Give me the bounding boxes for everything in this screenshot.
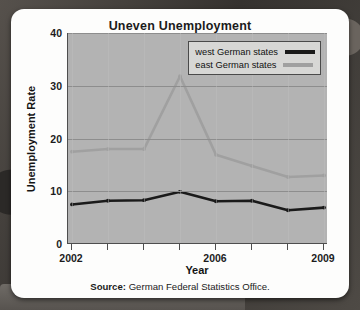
- x-axis-title: Year: [67, 264, 327, 276]
- legend-swatch-east: [283, 63, 313, 67]
- chart-legend: west German states east German states: [188, 41, 321, 75]
- legend-label-west: west German states: [195, 47, 278, 57]
- legend-label-east: east German states: [195, 60, 276, 70]
- x-tick-label-2009: 2009: [311, 252, 334, 264]
- vgridline-2003: [108, 33, 109, 243]
- y-tick-label-40: 40: [50, 27, 62, 39]
- vgridline-2004: [144, 33, 145, 243]
- y-axis-title-text: Unemployment Rate: [25, 85, 37, 191]
- source-text: German Federal Statistics Office.: [129, 281, 270, 292]
- y-tick-label-10: 10: [50, 185, 62, 197]
- x-tick-label-2006: 2006: [203, 252, 226, 264]
- x-tick-2008: [287, 244, 288, 250]
- vgridline-2009: [324, 33, 325, 243]
- x-tick-2009: [323, 244, 324, 250]
- x-tick-2002: [71, 244, 72, 250]
- x-tick-2005: [179, 244, 180, 250]
- y-tick-label-20: 20: [50, 133, 62, 145]
- plot-area-wrapper: 010203040 200220062009 west German state…: [67, 33, 327, 244]
- vgridline-2005: [180, 33, 181, 243]
- y-tick-label-0: 0: [56, 238, 62, 250]
- legend-item-east: east German states: [195, 58, 315, 71]
- x-tick-2007: [251, 244, 252, 250]
- chart-card: Uneven Unemployment Unemployment Rate 01…: [11, 9, 349, 298]
- y-tick-label-30: 30: [50, 80, 62, 92]
- source-prefix: Source:: [90, 281, 126, 292]
- legend-item-west: west German states: [195, 45, 315, 58]
- series-line-east: [72, 76, 324, 177]
- vgridline-2002: [72, 33, 73, 243]
- legend-swatch-west: [285, 50, 315, 54]
- source-note: Source: German Federal Statistics Office…: [11, 281, 349, 292]
- x-tick-label-2002: 2002: [59, 252, 82, 264]
- y-axis-title: Unemployment Rate: [23, 33, 39, 244]
- x-tick-2004: [143, 244, 144, 250]
- x-tick-2006: [215, 244, 216, 250]
- x-tick-2003: [107, 244, 108, 250]
